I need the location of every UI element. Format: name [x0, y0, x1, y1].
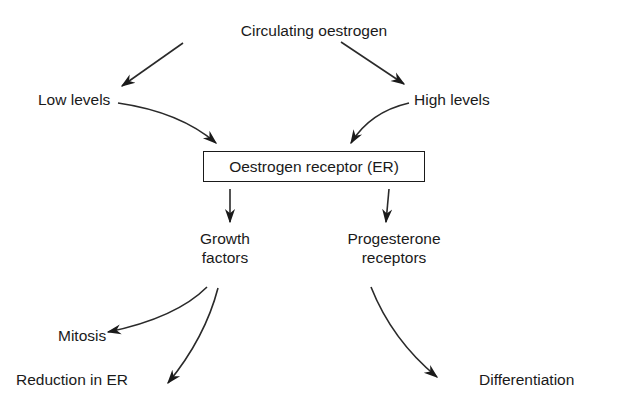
node-high-levels: High levels: [414, 90, 490, 109]
node-progesterone-receptors: Progesterone receptors: [347, 229, 440, 267]
growth-factors-line1: Growth: [200, 229, 250, 248]
arrow-receptor-to-progesterone: [386, 189, 389, 222]
node-growth-factors: Growth factors: [200, 229, 250, 267]
arrow-high-to-receptor: [351, 103, 409, 143]
node-reduction-in-er: Reduction in ER: [16, 370, 128, 389]
node-mitosis: Mitosis: [58, 326, 106, 345]
arrows-layer: [0, 0, 624, 413]
arrow-progesterone-to-differentiation: [371, 287, 437, 377]
node-differentiation: Differentiation: [479, 370, 574, 389]
arrow-circulating-to-high: [341, 42, 404, 84]
arrow-low-to-receptor: [118, 103, 216, 143]
node-oestrogen-receptor: Oestrogen receptor (ER): [203, 151, 425, 182]
arrow-circulating-to-low: [122, 43, 183, 86]
node-low-levels: Low levels: [38, 90, 110, 109]
arrow-growth-to-mitosis: [108, 287, 207, 332]
arrow-growth-to-reduction: [168, 288, 218, 383]
node-oestrogen-receptor-label: Oestrogen receptor (ER): [229, 158, 399, 176]
progesterone-receptors-line1: Progesterone: [347, 229, 440, 248]
growth-factors-line2: factors: [200, 248, 250, 267]
progesterone-receptors-line2: receptors: [347, 248, 440, 267]
node-circulating-oestrogen: Circulating oestrogen: [241, 21, 387, 40]
